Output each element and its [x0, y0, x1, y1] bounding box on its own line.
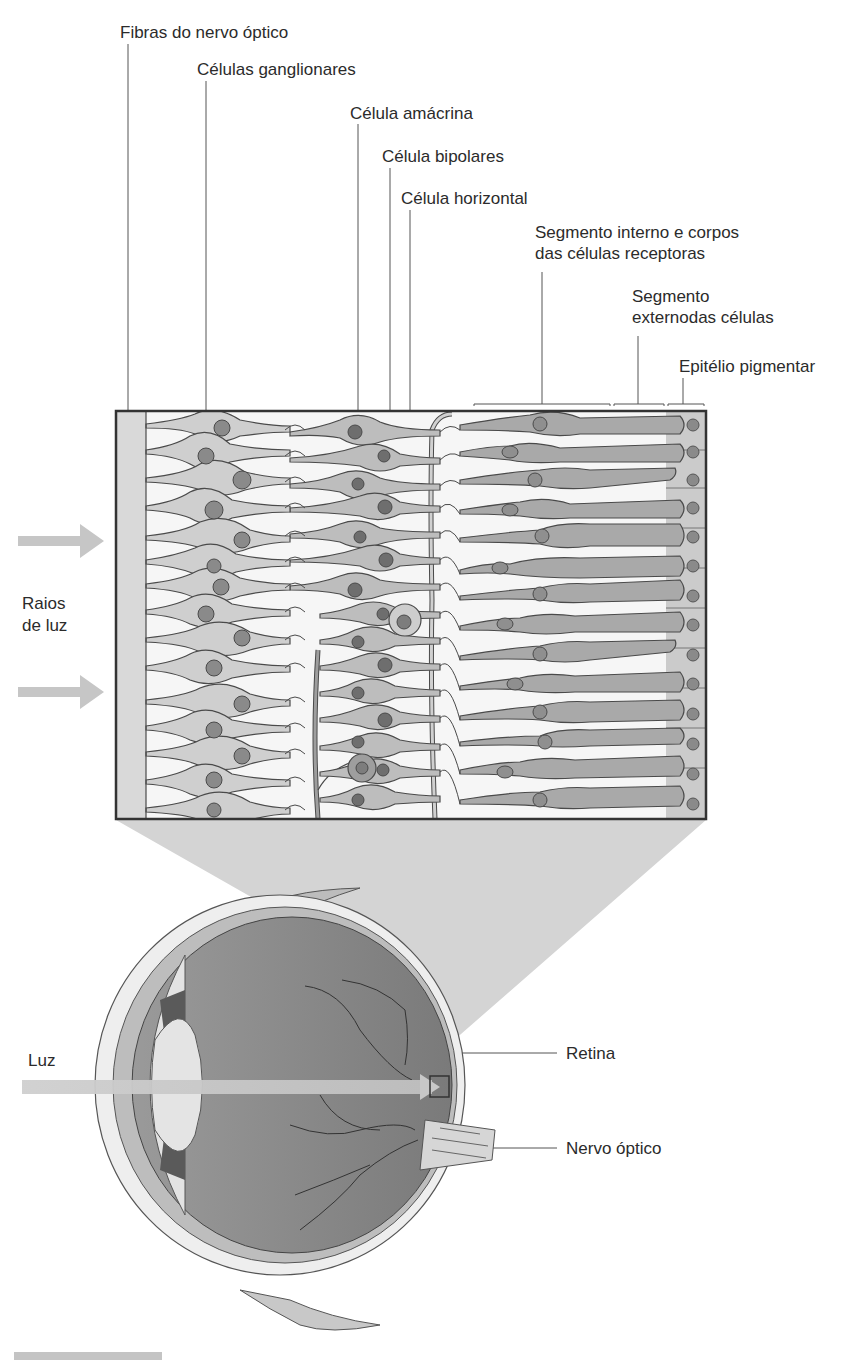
label-inner-segment-line1: Segmento interno e corpos [535, 222, 739, 243]
arrow-right-icon [18, 675, 104, 709]
light-beam [22, 1080, 432, 1094]
label-retina: Retina [566, 1043, 615, 1064]
label-light-rays: Raios de luz [22, 593, 67, 637]
label-amacrine-cell: Célula amácrina [350, 103, 473, 124]
label-light: Luz [28, 1050, 55, 1071]
label-outer-segment-line1: Segmento [632, 286, 774, 307]
label-optic-nerve: Nervo óptico [566, 1138, 661, 1159]
label-inner-segment-line2: das células receptoras [535, 243, 739, 264]
arrow-right-icon [18, 524, 104, 558]
label-inner-segment: Segmento interno e corpos das células re… [535, 222, 739, 264]
retina-layers-panel [116, 410, 706, 820]
label-outer-segment: Segmento externodas células [632, 286, 774, 328]
label-optic-nerve-fibers: Fibras do nervo óptico [120, 22, 288, 43]
label-light-rays-line1: Raios [22, 593, 67, 615]
label-horizontal-cell: Célula horizontal [401, 188, 528, 209]
label-bipolar-cells: Célula bipolares [382, 146, 504, 167]
footer-bar [14, 1352, 162, 1360]
label-ganglion-cells: Células ganglionares [197, 59, 356, 80]
label-pigment-epithelium: Epitélio pigmentar [679, 356, 815, 377]
label-light-rays-line2: de luz [22, 615, 67, 637]
label-outer-segment-line2: externodas células [632, 307, 774, 328]
